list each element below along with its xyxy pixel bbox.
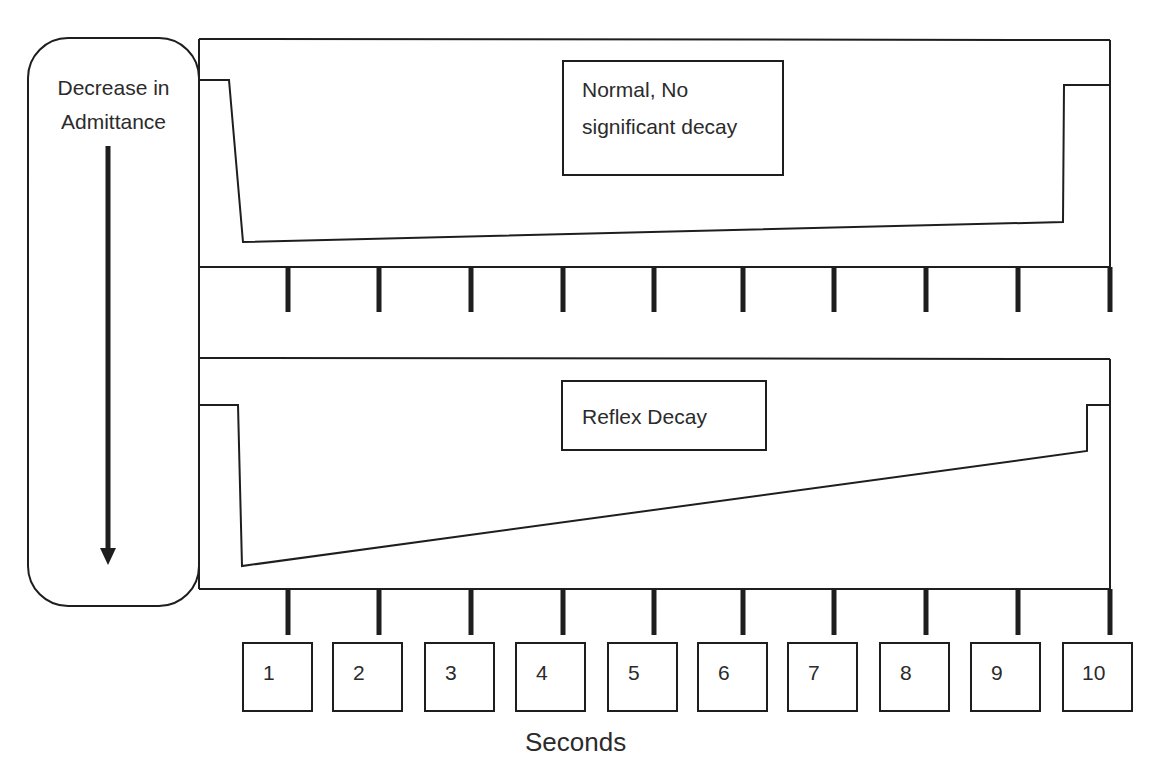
down-arrow-icon <box>100 548 116 565</box>
y-axis-label-line1: Decrease in <box>28 74 199 102</box>
lower-time-ticks <box>288 589 1110 635</box>
second-label-4: 4 <box>536 659 548 687</box>
second-label-9: 9 <box>991 659 1003 687</box>
second-label-8: 8 <box>900 659 912 687</box>
second-label-10: 10 <box>1082 659 1105 687</box>
upper-label-line2: significant decay <box>582 113 737 141</box>
lower-label-line1: Reflex Decay <box>582 403 707 431</box>
second-label-3: 3 <box>445 659 457 687</box>
upper-label-line1: Normal, No <box>582 76 688 104</box>
second-box-1 <box>243 643 312 711</box>
second-box-7 <box>788 643 857 711</box>
second-box-5 <box>608 643 677 711</box>
second-label-5: 5 <box>628 659 640 687</box>
second-box-2 <box>333 643 402 711</box>
lower-panel-reflex-decay <box>199 358 1110 635</box>
second-box-6 <box>698 643 767 711</box>
second-box-4 <box>516 643 585 711</box>
acoustic-reflex-decay-diagram: Decrease in Admittance Normal, No signif… <box>0 0 1157 776</box>
second-box-8 <box>880 643 949 711</box>
second-label-2: 2 <box>353 659 365 687</box>
upper-panel-top-border <box>199 39 1110 40</box>
second-label-6: 6 <box>718 659 730 687</box>
second-label-1: 1 <box>263 659 275 687</box>
second-box-9 <box>971 643 1040 711</box>
y-axis-label-line2: Admittance <box>28 108 199 136</box>
x-axis-label: Seconds <box>525 728 626 756</box>
lower-panel-top-border <box>199 358 1110 359</box>
second-label-7: 7 <box>808 659 820 687</box>
second-box-3 <box>425 643 494 711</box>
upper-time-ticks <box>288 267 1110 312</box>
